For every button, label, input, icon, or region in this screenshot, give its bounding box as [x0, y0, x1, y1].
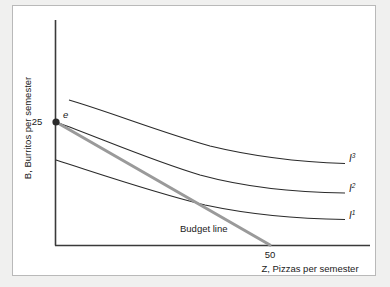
curve-label-i2: I2 [349, 182, 356, 194]
x-axis-title: Z, Pizzas per semester [261, 263, 358, 274]
optimum-point-dot [52, 118, 59, 125]
y-axis-title: B, Burritos per semester [22, 77, 33, 179]
y-tick-label-25: 25 [32, 116, 43, 127]
optimum-point-label: e [63, 109, 68, 120]
indifference-curve-i2 [56, 122, 345, 193]
curve-label-i2-sup: 2 [351, 182, 356, 189]
indifference-curve-chart: e 25 50 Budget line I3 I2 I1 Z, Pizzas p… [0, 0, 390, 287]
indifference-curve-i1 [56, 160, 345, 220]
curve-label-i3-sup: 3 [352, 152, 356, 159]
x-tick-label-50: 50 [265, 249, 276, 260]
budget-line-label: Budget line [180, 223, 228, 234]
curve-label-i1: I1 [349, 209, 356, 221]
curve-label-i1-sup: 1 [352, 209, 356, 216]
curve-label-i3: I3 [349, 152, 356, 164]
